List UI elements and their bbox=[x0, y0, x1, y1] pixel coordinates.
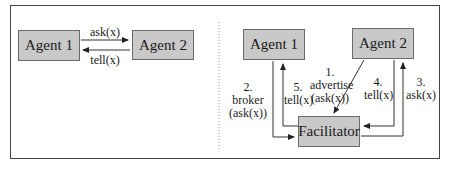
right-agent2-box: Agent 2 bbox=[352, 28, 414, 59]
left-agent1-box: Agent 1 bbox=[18, 30, 80, 61]
right-agent2-label: Agent 2 bbox=[359, 35, 407, 52]
step1-arg: (ask(x)) bbox=[310, 92, 350, 105]
step5-text: tell(x) bbox=[284, 94, 312, 107]
step2-arg: (ask(x)) bbox=[228, 107, 268, 120]
facilitator-box: Facilitator bbox=[298, 116, 360, 147]
facilitator-label: Facilitator bbox=[298, 123, 360, 140]
left-agent2-label: Agent 2 bbox=[139, 37, 187, 54]
step3-text: ask(x) bbox=[405, 89, 437, 102]
step4-text: tell(x) bbox=[364, 89, 392, 102]
left-agent2-box: Agent 2 bbox=[132, 30, 194, 60]
left-agent1-label: Agent 1 bbox=[25, 37, 73, 54]
tell-label: tell(x) bbox=[88, 54, 122, 67]
right-agent1-label: Agent 1 bbox=[250, 36, 298, 53]
step4-label: 4. tell(x) bbox=[364, 76, 392, 102]
right-agent1-box: Agent 1 bbox=[243, 29, 305, 60]
step5-label: 5. tell(x) bbox=[284, 81, 312, 107]
ask-label: ask(x) bbox=[88, 26, 122, 39]
step1-label: 1. advertise (ask(x)) bbox=[310, 66, 350, 105]
step3-label: 3. ask(x) bbox=[405, 76, 437, 102]
step2-label: 2. broker (ask(x)) bbox=[228, 81, 268, 120]
